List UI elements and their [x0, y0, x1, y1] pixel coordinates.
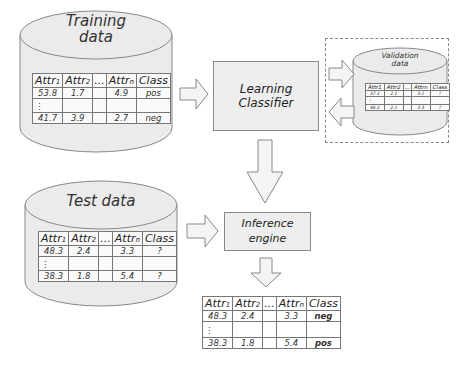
- header-class: Class: [430, 84, 449, 91]
- table-header-row: Attr1 Attr2 ... Attrn Class: [33, 74, 171, 88]
- header-class: Class: [306, 297, 340, 311]
- validation-data-title: Validation data: [362, 52, 438, 68]
- cell: 5.4: [276, 338, 306, 349]
- table-row: 46.2 2.1 3.3 ?: [366, 105, 450, 111]
- header-ellipsis: ...: [263, 297, 277, 311]
- predicted-class-cell: pos: [306, 338, 340, 349]
- cell: pos: [136, 88, 170, 99]
- cell: 48.3: [203, 311, 233, 322]
- inference-engine-label-line1: Inference: [242, 217, 294, 232]
- cell: ⋮: [366, 97, 385, 105]
- output-table: Attr1 Attr2 ... Attrn Class 48.3 2.4 3.3…: [202, 296, 341, 349]
- cell: ?: [430, 105, 449, 111]
- cell: [263, 322, 277, 338]
- table-row: 41.7 3.9 2.7 neg: [33, 113, 171, 124]
- cell: [99, 271, 113, 282]
- cell: [93, 113, 107, 124]
- cell: [411, 97, 430, 105]
- header-attr2: Attr2: [233, 297, 263, 311]
- cell: 2.4: [233, 311, 263, 322]
- cell: 1.7: [63, 88, 93, 99]
- header-ellipsis: ...: [99, 232, 113, 246]
- cell: 2.7: [106, 113, 136, 124]
- table-header-row: Attr1 Attr2 ... Attrn Class: [366, 84, 450, 91]
- table-row: 38.3 1.8 5.4 ?: [39, 271, 177, 282]
- table-row: ⋮: [33, 99, 171, 113]
- cell: 48.3: [39, 246, 69, 257]
- arrow-right-icon: [187, 215, 218, 247]
- cell: [142, 257, 176, 271]
- cell: 3.3: [411, 105, 430, 111]
- cell: 46.2: [366, 105, 385, 111]
- cell: 3.3: [112, 246, 142, 257]
- validation-title-line2: data: [362, 60, 438, 68]
- cell: 4.9: [106, 88, 136, 99]
- training-data-table: Attr1 Attr2 ... Attrn Class 53.8 1.7 4.9…: [32, 73, 171, 124]
- cell: 1.8: [233, 338, 263, 349]
- header-attrn: Attrn: [112, 232, 142, 246]
- cell: ?: [142, 271, 176, 282]
- training-title-line2: data: [40, 30, 152, 46]
- cell: [403, 105, 411, 111]
- header-class: Class: [142, 232, 176, 246]
- table-row: ⋮: [39, 257, 177, 271]
- learning-classifier-label: Learning Classifier: [214, 82, 318, 110]
- header-attrn: Attrn: [411, 84, 430, 91]
- cell: 38.3: [39, 271, 69, 282]
- cell: 3.9: [63, 113, 93, 124]
- table-row: ⋮: [203, 322, 341, 338]
- cell: neg: [136, 113, 170, 124]
- cell: [306, 322, 340, 338]
- header-attr2: Attr2: [69, 232, 99, 246]
- header-ellipsis: ...: [93, 74, 107, 88]
- table-row: 53.8 1.7 4.9 pos: [33, 88, 171, 99]
- cell: [263, 338, 277, 349]
- header-class: Class: [136, 74, 170, 88]
- header-attr1: Attr1: [366, 84, 385, 91]
- cell: 2.1: [384, 105, 403, 111]
- inference-engine-label-line2: engine: [249, 232, 287, 247]
- table-row: 38.3 1.8 5.4 pos: [203, 338, 341, 349]
- cell: 41.7: [33, 113, 63, 124]
- header-attr1: Attr1: [33, 74, 63, 88]
- cell: 2.4: [69, 246, 99, 257]
- cell: [403, 97, 411, 105]
- header-attr1: Attr1: [39, 232, 69, 246]
- header-ellipsis: ...: [403, 84, 411, 91]
- table-row: 48.3 2.4 3.3 neg: [203, 311, 341, 322]
- cell: [384, 97, 403, 105]
- cell: [93, 88, 107, 99]
- cell: [112, 257, 142, 271]
- cell: [276, 322, 306, 338]
- cell: ⋮: [203, 322, 233, 338]
- validation-data-table: Attr1 Attr2 ... Attrn Class 37.1 2.1 3.1…: [365, 83, 450, 111]
- header-attr2: Attr2: [63, 74, 93, 88]
- cell: [106, 99, 136, 113]
- cell: 5.4: [112, 271, 142, 282]
- header-attrn: Attrn: [276, 297, 306, 311]
- cell: [136, 99, 170, 113]
- arrow-down-icon: [251, 258, 281, 287]
- header-attrn: Attrn: [106, 74, 136, 88]
- cell: [99, 257, 113, 271]
- learning-classifier-box: Learning Classifier: [213, 61, 319, 131]
- cell: [69, 257, 99, 271]
- table-row: 48.3 2.4 3.3 ?: [39, 246, 177, 257]
- cell: 38.3: [203, 338, 233, 349]
- arrow-right-icon: [180, 79, 208, 109]
- table-row: ⋮: [366, 97, 450, 105]
- cell: [233, 322, 263, 338]
- test-data-title: Test data: [45, 194, 157, 210]
- cell: [99, 246, 113, 257]
- cell: 3.3: [276, 311, 306, 322]
- table-header-row: Attr1 Attr2 ... Attrn Class: [203, 297, 341, 311]
- cell: [430, 97, 449, 105]
- cell: 1.8: [69, 271, 99, 282]
- cell: [63, 99, 93, 113]
- cell: [263, 311, 277, 322]
- arrow-down-icon: [247, 140, 283, 203]
- cell: 53.8: [33, 88, 63, 99]
- predicted-class-cell: neg: [306, 311, 340, 322]
- cell: ?: [142, 246, 176, 257]
- cell: ⋮: [33, 99, 63, 113]
